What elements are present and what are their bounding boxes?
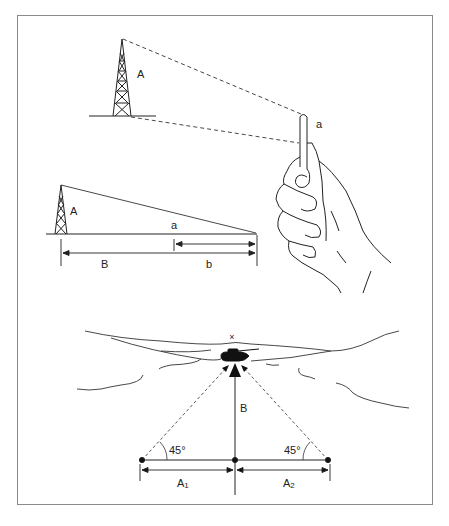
label-right-offset: A2 [283, 477, 295, 490]
label-tower-height-upper: A [137, 68, 145, 80]
label-stick-height-lower: a [171, 219, 178, 231]
sight-lines-upper [123, 39, 301, 143]
label-stick-length: a [316, 118, 323, 130]
dimension-lines-lower [61, 235, 257, 266]
range-arrow [229, 363, 241, 495]
label-tower-height-lower: A [70, 205, 78, 217]
hand-holding-stick [276, 115, 391, 294]
hypotenuse-line [61, 185, 256, 233]
label-total-distance: B [101, 258, 108, 270]
terrain-lines [77, 276, 409, 408]
label-arm-distance: b [206, 258, 212, 270]
label-range: B [240, 402, 247, 414]
tank-icon [221, 349, 259, 361]
baseline-45 [139, 457, 330, 462]
label-left-offset: A1 [177, 477, 189, 490]
tower-lower [46, 185, 257, 234]
label-angle-left: 45° [169, 444, 186, 456]
tower-upper [89, 39, 156, 116]
label-angle-right: 45° [284, 444, 301, 456]
target-x-marker: × [229, 332, 234, 342]
diagram-frame: A a A a [17, 15, 433, 505]
diagram-canvas: A a A a [18, 16, 434, 506]
